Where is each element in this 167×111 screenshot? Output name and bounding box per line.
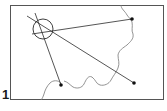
landmark-point-bottom-right	[132, 81, 136, 85]
landmark-point-top-right	[130, 17, 134, 21]
landmark-point-bottom-left	[59, 83, 63, 87]
resection-diagram: 1	[0, 0, 167, 111]
figure-number-label: 1	[2, 88, 9, 101]
